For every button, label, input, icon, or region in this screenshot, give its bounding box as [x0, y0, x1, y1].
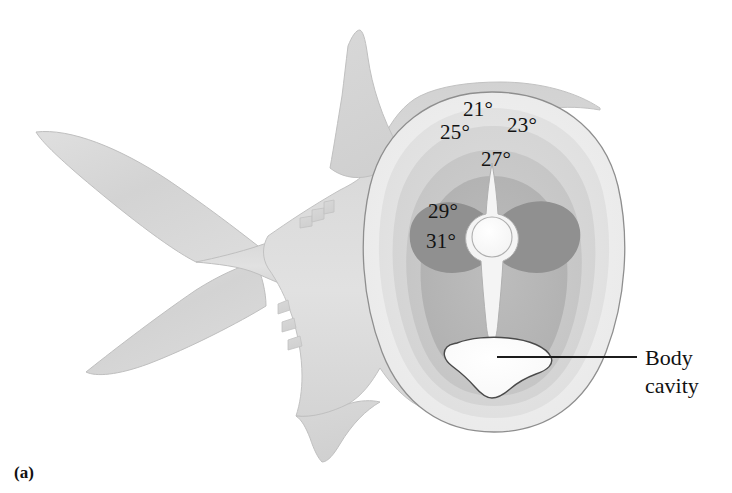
- spinal-cord: [472, 217, 512, 257]
- caudal-fin-lower-lobe: [86, 262, 266, 375]
- temp-label-23: 23°: [507, 113, 537, 137]
- temp-label-27: 27°: [481, 147, 511, 171]
- panel-caption: (a): [14, 463, 34, 482]
- body-cavity-label-line2: cavity: [645, 373, 699, 398]
- figure-container: 21° 23° 25° 27° 29° 31° Body cavity (a): [0, 0, 732, 493]
- body-cavity-label-line1: Body: [645, 345, 693, 370]
- temp-label-21: 21°: [463, 97, 493, 121]
- temp-label-25: 25°: [440, 120, 470, 144]
- caudal-fin-upper-lobe: [36, 131, 258, 262]
- body-cross-section: [363, 92, 637, 432]
- temp-label-29: 29°: [428, 199, 458, 223]
- temp-label-31: 31°: [426, 229, 456, 253]
- tuna-thermal-figure: 21° 23° 25° 27° 29° 31° Body cavity (a): [0, 0, 732, 493]
- body-cavity-callout: Body cavity: [645, 345, 699, 398]
